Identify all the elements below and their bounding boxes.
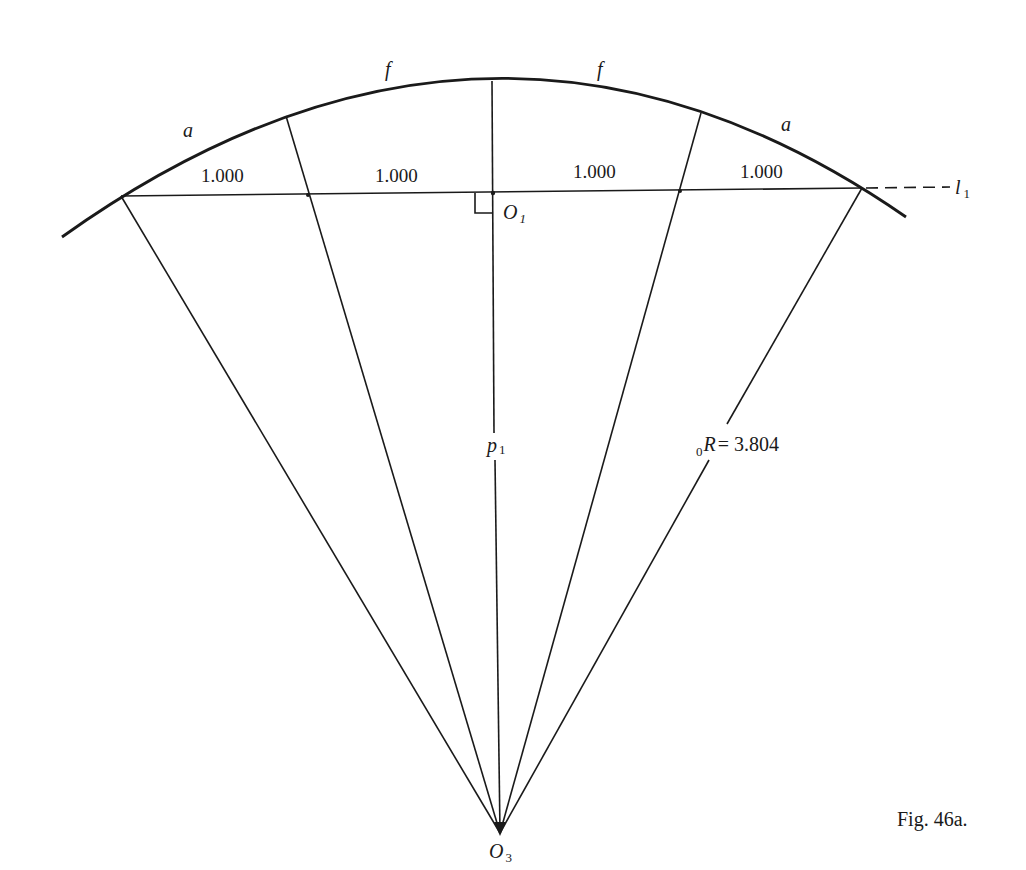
radius-R-lower xyxy=(500,460,709,833)
radius-line-2 xyxy=(286,116,500,833)
perpendicular-p1-upper xyxy=(492,81,494,433)
radius-label: 0R= 3.804 xyxy=(696,433,779,459)
arc-label-a-right: a xyxy=(781,113,791,135)
line-label-l1: l1 xyxy=(955,176,970,201)
arc-label-f-right: f xyxy=(597,58,605,81)
radius-line-1 xyxy=(121,196,500,833)
geometry-diagram: a f f a 1.000 1.000 1.000 1.000 O1 l1 p1… xyxy=(0,0,1026,870)
intersection-dot-left xyxy=(306,193,310,197)
segment-label-1: 1.000 xyxy=(201,165,244,186)
intersection-dot-right xyxy=(678,189,682,193)
radius-R-upper xyxy=(727,188,862,424)
segment-label-2: 1.000 xyxy=(375,165,418,186)
point-o3-vertex xyxy=(494,822,506,836)
perpendicular-p1-lower xyxy=(495,460,500,833)
radius-line-4 xyxy=(500,113,701,833)
point-label-o1: O1 xyxy=(503,201,526,226)
point-o1-dot xyxy=(491,191,495,195)
right-angle-marker xyxy=(475,193,493,213)
arc-label-a-left: a xyxy=(183,119,193,141)
line-label-p1: p1 xyxy=(485,434,506,457)
figure-caption: Fig. 46a. xyxy=(897,808,968,831)
chord-extension-dashed xyxy=(866,187,950,188)
point-label-o3: O3 xyxy=(489,840,512,865)
arc-label-f-left: f xyxy=(385,58,393,81)
segment-label-4: 1.000 xyxy=(740,161,783,182)
segment-label-3: 1.000 xyxy=(573,161,616,182)
